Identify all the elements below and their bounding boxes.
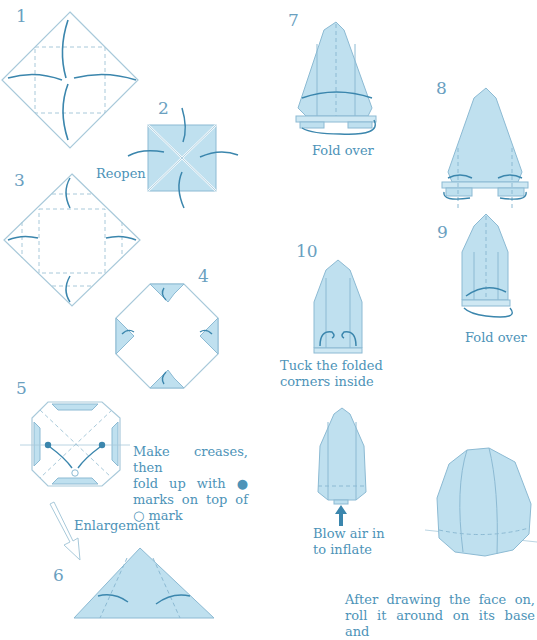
step-5-line-1: Make creases, then <box>133 444 248 476</box>
inflate-line-2: to inflate <box>313 542 385 558</box>
step-8-diagram <box>440 88 536 208</box>
blow-arrow-icon <box>335 505 347 526</box>
step-5-diagram <box>20 400 130 490</box>
step-9-caption: Fold over <box>465 330 527 346</box>
step-5-instructions: Make creases, then fold up with ● marks … <box>133 444 248 524</box>
step-9-diagram <box>460 212 537 322</box>
step-10-diagram <box>310 258 380 358</box>
step-7-diagram <box>292 20 388 136</box>
enlargement-label: Enlargement <box>74 518 160 534</box>
step-6-number: 6 <box>53 565 64 585</box>
finished-balloon-diagram <box>425 448 537 558</box>
step-10-line-2: corners inside <box>280 374 383 390</box>
inflate-diagram <box>310 406 380 526</box>
step-9-number: 9 <box>437 222 448 242</box>
final-line-2: roll it around on its base and <box>345 608 535 640</box>
step-7-caption: Fold over <box>312 143 374 159</box>
step-5-line-2: fold up with ● <box>133 476 248 492</box>
final-line-1: After drawing the face on, <box>345 592 535 608</box>
step-10-line-1: Tuck the folded <box>280 358 383 374</box>
step-4-diagram <box>112 282 222 392</box>
final-instructions: After drawing the face on, roll it aroun… <box>345 592 535 640</box>
step-6-diagram <box>72 546 217 618</box>
inflate-instructions: Blow air in to inflate <box>313 526 385 558</box>
step-5-number: 5 <box>16 378 27 398</box>
inflate-line-1: Blow air in <box>313 526 385 542</box>
step-10-instructions: Tuck the folded corners inside <box>280 358 383 390</box>
step-5-line-3: marks on top of <box>133 492 248 508</box>
